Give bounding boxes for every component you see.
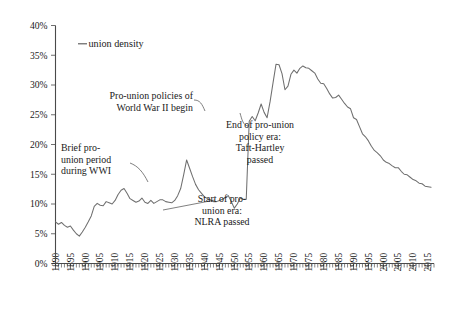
- nlra-annotation-line: NLRA passed: [194, 216, 249, 227]
- x-tick-label-1955: 1955: [244, 253, 254, 272]
- x-tick-label-1910: 1910: [110, 253, 120, 272]
- x-tick-label-2015: 2015: [423, 253, 433, 272]
- x-tick-label-1965: 1965: [274, 253, 284, 272]
- x-axis-tick-labels: 1890189519001905191019151920192519301935…: [51, 253, 434, 272]
- y-axis-ticks: [51, 26, 56, 264]
- x-tick-label-2005: 2005: [393, 253, 403, 272]
- taft-hartley-annotation: End of pro-unionpolicy era:Taft-Hartleyp…: [226, 119, 294, 165]
- x-tick-label-1930: 1930: [170, 253, 180, 272]
- chart-legend: union density: [78, 38, 145, 49]
- x-tick-label-1920: 1920: [140, 253, 150, 272]
- ww2-annotation-line: World War II begin: [117, 102, 193, 113]
- x-tick-label-1945: 1945: [215, 253, 225, 272]
- ww2-annotation-line: Pro-union policies of: [110, 90, 194, 101]
- legend-label-union-density: union density: [89, 38, 145, 49]
- y-tick-label-5%: 5%: [35, 228, 48, 239]
- y-tick-label-20%: 20%: [30, 139, 48, 150]
- x-tick-label-1985: 1985: [334, 253, 344, 272]
- y-tick-label-0%: 0%: [35, 258, 48, 269]
- x-tick-label-1960: 1960: [259, 253, 269, 272]
- y-tick-label-30%: 30%: [30, 79, 48, 90]
- wwi-annotation-line: Brief pro-: [61, 142, 100, 153]
- x-tick-label-1995: 1995: [364, 253, 374, 272]
- y-tick-label-15%: 15%: [30, 169, 48, 180]
- y-axis-tick-labels: 0%5%10%15%20%25%30%35%40%: [30, 20, 48, 269]
- chart-canvas: 0%5%10%15%20%25%30%35%40% 18901895190019…: [0, 0, 455, 309]
- x-tick-label-1970: 1970: [289, 253, 299, 272]
- taft-hartley-annotation-line: policy era:: [239, 131, 281, 142]
- x-tick-label-1895: 1895: [66, 253, 76, 272]
- ww2-annotation-leader: [194, 100, 205, 111]
- taft-hartley-annotation-line: passed: [247, 154, 273, 165]
- wwi-annotation-line: during WWI: [61, 165, 111, 176]
- nlra-annotation-line: Start of pro-: [198, 193, 246, 204]
- y-tick-label-40%: 40%: [30, 20, 48, 31]
- x-tick-label-1915: 1915: [125, 253, 135, 272]
- x-tick-label-1990: 1990: [349, 253, 359, 272]
- nlra-annotation-line: union era:: [202, 205, 242, 216]
- taft-hartley-annotation-line: Taft-Hartley: [236, 142, 285, 153]
- ww2-annotation: Pro-union policies ofWorld War II begin: [110, 90, 194, 113]
- x-tick-label-1900: 1900: [81, 253, 91, 272]
- x-tick-label-2010: 2010: [408, 253, 418, 272]
- taft-hartley-annotation-line: End of pro-union: [226, 119, 294, 130]
- wwi-annotation-line: union period: [61, 154, 111, 165]
- x-tick-label-1935: 1935: [185, 253, 195, 272]
- x-tick-label-2000: 2000: [379, 253, 389, 272]
- nlra-annotation: Start of pro-union era:NLRA passed: [194, 193, 249, 227]
- wwi-annotation-leader: [130, 163, 148, 182]
- union-density-chart: 0%5%10%15%20%25%30%35%40% 18901895190019…: [0, 0, 455, 309]
- y-tick-label-10%: 10%: [30, 198, 48, 209]
- x-tick-label-1975: 1975: [304, 253, 314, 272]
- y-tick-label-25%: 25%: [30, 109, 48, 120]
- x-tick-label-1950: 1950: [230, 253, 240, 272]
- x-tick-label-1925: 1925: [155, 253, 165, 272]
- y-tick-label-35%: 35%: [30, 50, 48, 61]
- x-tick-label-1940: 1940: [200, 253, 210, 272]
- wwi-annotation: Brief pro-union periodduring WWI: [61, 142, 111, 176]
- x-tick-label-1905: 1905: [95, 253, 105, 272]
- x-tick-label-1980: 1980: [319, 253, 329, 272]
